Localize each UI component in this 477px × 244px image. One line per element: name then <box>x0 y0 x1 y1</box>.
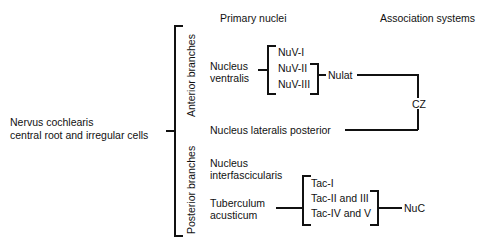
subdivision-tac-3: Tac-IV and V <box>311 207 371 219</box>
association-cz: CZ <box>412 98 426 110</box>
subdivision-tac-2: Tac-II and III <box>311 192 369 204</box>
association-nulat: Nulat <box>328 69 353 81</box>
subdivision-nuv-2: NuV-II <box>278 62 307 74</box>
nucleus-interfascicularis-line1: Nucleus <box>210 157 248 169</box>
nucleus-ventralis-line2: ventralis <box>210 72 249 84</box>
tuberculum-acusticum-line1: Tuberculum <box>210 197 265 209</box>
tuberculum-acusticum-line2: acusticum <box>210 209 257 221</box>
subdivision-tac-1: Tac-I <box>311 177 334 189</box>
branch-label-posterior: Posterior branches <box>185 146 197 234</box>
nucleus-lateralis-posterior: Nucleus lateralis posterior <box>210 124 331 136</box>
association-nuc: NuC <box>404 202 425 214</box>
branch-label-anterior: Anterior branches <box>185 34 197 117</box>
nucleus-ventralis-line1: Nucleus <box>210 60 248 72</box>
nucleus-interfascicularis-line2: interfascicularis <box>210 169 282 181</box>
subdivision-nuv-1: NuV-I <box>278 46 304 58</box>
subdivision-nuv-3: NuV-III <box>278 78 310 90</box>
